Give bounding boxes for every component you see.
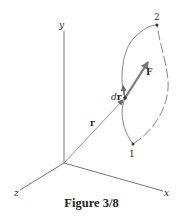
force-vector-F xyxy=(125,62,148,98)
displacement-vector-dr xyxy=(123,86,125,98)
displacement-vector-label: dr xyxy=(111,92,122,102)
force-vector-label: F xyxy=(146,67,153,77)
dashed-path-curve xyxy=(133,25,168,144)
point-P xyxy=(123,96,127,100)
solid-path-curve xyxy=(122,25,157,144)
position-vector-r xyxy=(64,100,123,163)
y-axis-label: y xyxy=(58,20,65,30)
point-1-dot xyxy=(132,143,135,146)
coordinate-axes xyxy=(20,31,163,191)
point-1-label: 1 xyxy=(129,149,135,159)
z-axis xyxy=(20,163,64,190)
point-2-label: 2 xyxy=(154,12,160,22)
position-vector-label: r xyxy=(90,118,95,128)
x-axis xyxy=(64,163,163,191)
point-2-dot xyxy=(156,24,159,27)
work-diagram: y x z r F dr 1 2 xyxy=(0,0,183,218)
figure-caption: Figure 3/8 xyxy=(0,196,183,211)
